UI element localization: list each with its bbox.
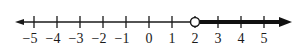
tick-label: 2 bbox=[192, 31, 199, 46]
tick-label: −5 bbox=[23, 31, 38, 46]
tick-label: −3 bbox=[69, 31, 84, 46]
solution-ray bbox=[200, 17, 292, 27]
tick-label: −4 bbox=[46, 31, 61, 46]
tick-labels: −5−4−3−2−1012345 bbox=[23, 31, 268, 46]
tick-label: 0 bbox=[146, 31, 153, 46]
open-circle-endpoint bbox=[191, 18, 200, 27]
tick-label: −1 bbox=[115, 31, 130, 46]
tick-label: 3 bbox=[215, 31, 222, 46]
left-arrow-icon bbox=[15, 19, 24, 25]
right-arrow-icon bbox=[279, 17, 292, 27]
axis bbox=[15, 19, 195, 25]
tick-label: 5 bbox=[261, 31, 268, 46]
tick-label: 1 bbox=[169, 31, 176, 46]
tick-label: −2 bbox=[92, 31, 107, 46]
tick-label: 4 bbox=[238, 31, 245, 46]
number-line: −5−4−3−2−1012345 bbox=[0, 0, 301, 47]
